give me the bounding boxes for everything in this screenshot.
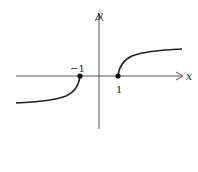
curve-right-branch bbox=[118, 49, 182, 76]
tick-label-pos1: 1 bbox=[116, 84, 122, 95]
point-pos1 bbox=[115, 73, 120, 78]
graph-figure: x y −1 1 bbox=[0, 0, 198, 172]
point-neg1 bbox=[77, 73, 82, 78]
x-axis-label: x bbox=[186, 70, 193, 83]
y-axis-label: y bbox=[96, 9, 103, 20]
curve-left-branch bbox=[16, 76, 80, 103]
tick-label-neg1: −1 bbox=[70, 63, 85, 74]
